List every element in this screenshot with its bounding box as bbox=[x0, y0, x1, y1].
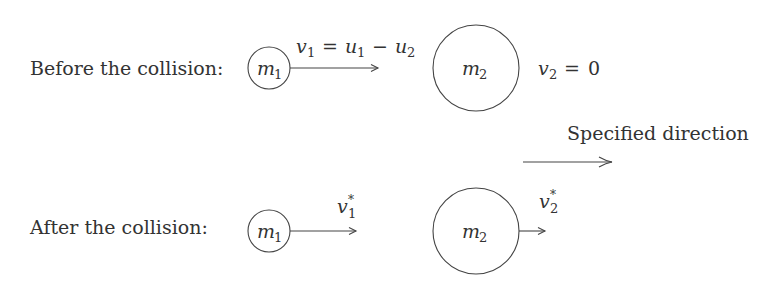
before-label: Before the collision: bbox=[30, 57, 223, 79]
v-superscript: * bbox=[348, 193, 354, 207]
v-subscript: 2 bbox=[550, 201, 558, 216]
u2-symbol: u bbox=[395, 35, 407, 57]
m2-symbol: m bbox=[462, 57, 480, 79]
v1-star-label: v 1 * bbox=[337, 193, 356, 221]
after-m2-ball: m 2 bbox=[433, 188, 519, 274]
collision-diagram: Before the collision: m 1 v 1 = u 1 − u … bbox=[0, 0, 777, 291]
v-symbol: v bbox=[337, 195, 348, 217]
v2-value: 0 bbox=[588, 57, 600, 79]
equals-sign: = bbox=[322, 35, 338, 57]
m1-subscript: 1 bbox=[274, 67, 282, 82]
u1-subscript: 1 bbox=[357, 45, 365, 60]
equals-sign: = bbox=[564, 57, 580, 79]
u1-symbol: u bbox=[345, 35, 357, 57]
m2-subscript: 2 bbox=[479, 230, 487, 245]
v-superscript: * bbox=[550, 188, 556, 202]
after-m1-ball: m 1 bbox=[248, 210, 290, 252]
v-symbol: v bbox=[538, 57, 549, 79]
direction-label: Specified direction bbox=[567, 122, 749, 144]
m2-subscript: 2 bbox=[479, 67, 487, 82]
v-subscript: 1 bbox=[348, 206, 356, 221]
before-m1-ball: m 1 bbox=[248, 47, 290, 89]
v2-star-label: v 2 * bbox=[539, 188, 558, 216]
m1-symbol: m bbox=[257, 57, 275, 79]
v-symbol: v bbox=[539, 190, 550, 212]
v1-equation: v 1 = u 1 − u 2 bbox=[296, 35, 415, 60]
m2-symbol: m bbox=[462, 220, 480, 242]
m1-subscript: 1 bbox=[274, 230, 282, 245]
v-subscript: 1 bbox=[307, 45, 315, 60]
after-label: After the collision: bbox=[29, 216, 208, 238]
u2-subscript: 2 bbox=[407, 45, 415, 60]
v2-equation: v 2 = 0 bbox=[538, 57, 600, 82]
before-m2-ball: m 2 bbox=[433, 25, 519, 111]
m1-symbol: m bbox=[257, 220, 275, 242]
minus-sign: − bbox=[372, 35, 388, 57]
v-subscript: 2 bbox=[549, 67, 557, 82]
v-symbol: v bbox=[296, 35, 307, 57]
